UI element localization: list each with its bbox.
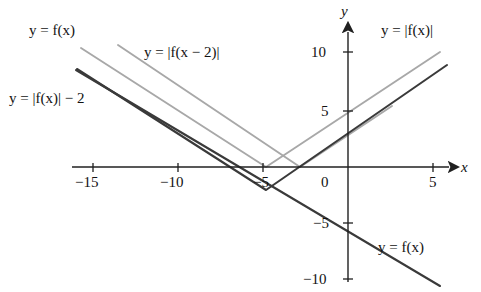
y-tick-label--5: −5 [313,216,329,231]
x-tick-label-5: 5 [429,175,437,190]
curve-label-f-bottom-right: y = f(x) [378,240,424,255]
curve-label-f-top-left: y = f(x) [29,23,75,38]
x-tick-label-0: 0 [321,175,329,190]
curve-label-abs-f-minus-2: y = |f(x)| − 2 [9,91,84,106]
y-tick-label-10: 10 [311,45,326,60]
curve-abs-f-shift [118,45,392,167]
curve-label-abs-f-shift: y = |f(x − 2)| [144,45,219,60]
y-axis-name: y [341,4,348,19]
x-tick-label--5: −5 [253,175,269,190]
y-tick-label--10: −10 [303,272,326,287]
x-tick-label--15: −15 [75,175,98,190]
curve-label-abs-f-right: y = |f(x)| [381,23,433,38]
math-graph-figure: x y −15 −10 −5 0 5 10 5 −5 −10 y = f(x) … [0,0,481,292]
x-tick-label--10: −10 [160,175,183,190]
x-axis-name: x [461,160,468,175]
y-tick-label-5: 5 [321,104,329,119]
